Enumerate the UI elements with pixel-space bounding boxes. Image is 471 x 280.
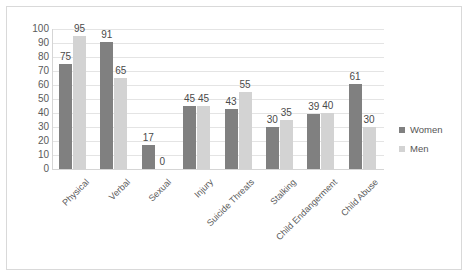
bar-men [114,78,127,169]
x-axis-label: Verbal [107,177,132,202]
bar-men [197,106,210,169]
x-axis-label: Injury [192,177,215,200]
x-axis-label: Sexual [147,177,174,204]
bar-value-label: 30 [267,115,278,125]
bar-men [363,127,376,169]
y-axis: 1009080706050403020100 [7,29,49,169]
chart-legend: WomenMen [399,125,459,163]
bar-value-label: 91 [101,30,112,40]
plot-area: 7595916517045454355303539406130 [53,29,384,169]
bar-men [239,92,252,169]
y-axis-tick-label: 20 [9,136,49,146]
legend-square-marker-icon [399,127,405,133]
bar-women [307,114,320,169]
x-axis-label: Physical [60,177,91,208]
bar-value-label: 30 [364,115,375,125]
bar-value-label: 61 [350,72,361,82]
bar-women [183,106,196,169]
y-axis-tick-label: 70 [9,66,49,76]
bar-group: 3035 [260,29,301,169]
bar-value-label: 35 [281,108,292,118]
bar-women [100,42,113,169]
legend-item[interactable]: Men [399,144,459,154]
y-axis-tick-label: 100 [9,24,49,34]
x-axis-category-labels: PhysicalVerbalSexualInjurySuicide Threat… [53,173,384,243]
bar-group: 7595 [53,29,94,169]
bar-value-label: 95 [74,24,85,34]
legend-label: Men [410,144,428,154]
bar-group: 4355 [219,29,260,169]
y-axis-tick-label: 60 [9,80,49,90]
bar-women [59,64,72,169]
bar-men [280,120,293,169]
y-axis-tick-label: 80 [9,52,49,62]
bar-group: 9165 [94,29,135,169]
y-axis-tick-label: 90 [9,38,49,48]
bar-group: 3940 [301,29,342,169]
y-axis-tick-label: 10 [9,150,49,160]
bar-men [321,113,334,169]
y-axis-tick-label: 40 [9,108,49,118]
bar-value-label: 45 [198,94,209,104]
bar-value-label: 40 [322,101,333,111]
chart-frame: 1009080706050403020100 75959165170454543… [6,6,462,270]
bar-women [225,109,238,169]
bar-value-label: 65 [115,66,126,76]
bar-value-label: 0 [159,157,165,167]
y-axis-tick-label: 0 [9,164,49,174]
bar-value-label: 55 [239,80,250,90]
bar-group: 6130 [343,29,384,169]
bar-women [266,127,279,169]
bar-women [349,84,362,169]
bar-value-label: 17 [143,133,154,143]
bar-women [142,145,155,169]
legend-label: Women [410,125,443,135]
y-axis-tick-label: 50 [9,94,49,104]
bar-group: 170 [136,29,177,169]
bar-men [73,36,86,169]
legend-square-marker-icon [399,146,405,152]
gridline [53,169,384,170]
bar-group: 4545 [177,29,218,169]
bar-value-label: 43 [225,97,236,107]
x-axis-label: Child Abuse [339,177,380,218]
bar-value-label: 45 [184,94,195,104]
y-axis-tick-label: 30 [9,122,49,132]
bar-value-label: 39 [308,102,319,112]
x-axis-label: Stalking [268,177,298,207]
bar-value-label: 75 [60,52,71,62]
legend-item[interactable]: Women [399,125,459,135]
